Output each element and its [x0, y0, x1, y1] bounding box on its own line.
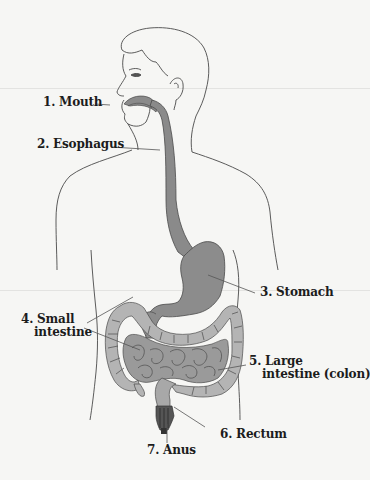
label-small-intestine-line1: 4. Small — [21, 312, 74, 326]
label-mouth: 1. Mouth — [43, 96, 102, 109]
label-esophagus: 2. Esophagus — [37, 138, 124, 151]
label-esophagus-text: 2. Esophagus — [37, 137, 124, 151]
label-stomach-text: 3. Stomach — [260, 285, 333, 299]
digestive-system-diagram: 1. Mouth 2. Esophagus 3. Stomach 4. Smal… — [0, 0, 370, 480]
leader-rectum — [174, 407, 205, 427]
label-anus-text: 7. Anus — [147, 443, 196, 457]
rectum-organ — [155, 378, 176, 430]
anatomy-illustration — [0, 0, 370, 480]
label-large-intestine-line1: 5. Large — [249, 354, 303, 368]
label-small-intestine: 4. Small intestine — [21, 313, 92, 339]
label-stomach: 3. Stomach — [260, 286, 333, 299]
anus-organ — [161, 428, 167, 434]
label-large-intestine-line2: intestine (colon) — [249, 368, 370, 381]
head-outline — [117, 28, 209, 152]
label-large-intestine: 5. Large intestine (colon) — [249, 355, 370, 381]
label-anus: 7. Anus — [147, 444, 196, 457]
label-small-intestine-line2: intestine — [21, 326, 92, 339]
label-mouth-text: 1. Mouth — [43, 95, 102, 109]
label-rectum-text: 6. Rectum — [220, 427, 287, 441]
label-rectum: 6. Rectum — [220, 428, 287, 441]
esophagus-organ — [150, 100, 194, 258]
